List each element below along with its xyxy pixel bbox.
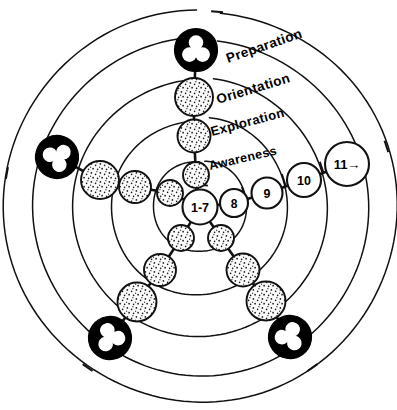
node-8-label: 8 bbox=[231, 197, 238, 211]
stipple-up-2 bbox=[178, 120, 211, 153]
stipple-ul-3 bbox=[81, 161, 119, 199]
stipple-lr-2 bbox=[227, 254, 260, 287]
stipple-up-3 bbox=[175, 78, 213, 116]
node-10: 10 bbox=[287, 163, 321, 197]
node-11: 11→ bbox=[325, 142, 369, 186]
diagram-canvas: 1-7891011→ PreparationOrientationExplora… bbox=[0, 0, 397, 410]
stipple-ll-3 bbox=[118, 283, 157, 322]
node-9-label: 9 bbox=[264, 187, 271, 201]
concentric-stage-diagram: 1-7891011→ PreparationOrientationExplora… bbox=[0, 0, 397, 410]
node-8: 8 bbox=[220, 189, 248, 217]
stipple-lr-3 bbox=[247, 282, 286, 321]
stage-label-exploration: Exploration bbox=[209, 105, 286, 139]
node-9: 9 bbox=[252, 178, 283, 209]
stipple-ll-1 bbox=[168, 225, 194, 251]
trefoil-top bbox=[175, 29, 218, 72]
stage-label-group: PreparationOrientationExplorationAwarene… bbox=[208, 26, 305, 173]
node-1-7: 1-7 bbox=[183, 190, 218, 225]
tick-lower-right-outer bbox=[308, 364, 318, 371]
node-1-7-label: 1-7 bbox=[191, 201, 209, 215]
stage-label-awareness: Awareness bbox=[208, 144, 279, 173]
node-10-label: 10 bbox=[297, 174, 311, 188]
tick-up-outer bbox=[211, 11, 223, 12]
stage-label-preparation: Preparation bbox=[224, 26, 304, 66]
stipple-ul-1 bbox=[157, 180, 183, 206]
stipple-up-1 bbox=[183, 162, 209, 188]
stage-label-orientation: Orientation bbox=[214, 70, 291, 107]
node-11-label: 11→ bbox=[334, 157, 361, 172]
stipple-lr-1 bbox=[208, 225, 234, 251]
stipple-ul-2 bbox=[119, 171, 151, 203]
stipple-ll-2 bbox=[144, 254, 176, 286]
